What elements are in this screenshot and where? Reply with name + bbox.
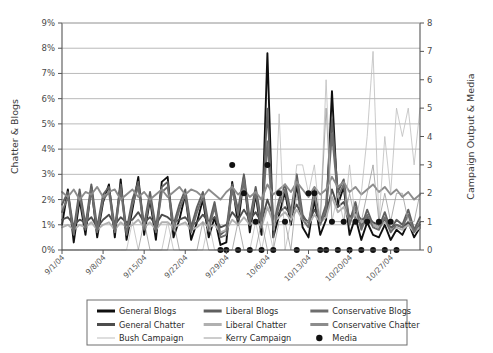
y-tick-label-right: 0 — [427, 245, 432, 255]
y-tick-label-left: 3% — [42, 169, 56, 179]
media-dot — [305, 190, 311, 196]
x-tick-label: 10/20/04 — [324, 253, 355, 284]
x-tick-label: 9/8/04 — [84, 253, 108, 277]
media-dot — [276, 190, 282, 196]
y-tick-label-left: 2% — [42, 195, 56, 205]
y-tick-label-right: 7 — [427, 46, 432, 56]
x-tick-label: 9/22/04 — [163, 253, 190, 280]
y-tick-label-left: 0% — [42, 245, 56, 255]
line-chart: 0%1%2%3%4%5%6%7%8%9%0123456789/1/049/8/0… — [0, 0, 493, 353]
media-dot — [364, 219, 370, 225]
media-dot — [352, 219, 358, 225]
media-dot — [388, 219, 394, 225]
y-tick-label-left: 6% — [42, 94, 56, 104]
legend: General BlogsLiberal BlogsConservative B… — [87, 300, 420, 345]
legend-item-label: Liberal Chatter — [226, 320, 288, 330]
x-tick-label: 9/15/04 — [122, 253, 149, 280]
y-tick-label-right: 3 — [427, 160, 432, 170]
y-tick-label-right: 4 — [427, 132, 432, 142]
chart-container: 0%1%2%3%4%5%6%7%8%9%0123456789/1/049/8/0… — [0, 0, 493, 353]
y-tick-label-right: 1 — [427, 217, 432, 227]
y-axis-title-left: Chatter & Blogs — [9, 99, 20, 174]
x-tick-label: 10/6/04 — [245, 253, 272, 280]
media-dot — [311, 190, 317, 196]
legend-item-label: Bush Campaign — [119, 333, 183, 343]
legend-item-label: General Blogs — [119, 306, 176, 316]
y-tick-label-right: 5 — [427, 103, 432, 113]
legend-item-label: Liberal Blogs — [226, 306, 279, 316]
x-tick-label: 9/1/04 — [43, 253, 67, 277]
axes: 0%1%2%3%4%5%6%7%8%9%0123456789/1/049/8/0… — [42, 18, 433, 284]
media-dot — [229, 162, 235, 168]
y-tick-label-left: 7% — [42, 68, 56, 78]
media-dot — [341, 219, 347, 225]
y-tick-label-right: 8 — [427, 18, 432, 28]
media-dot — [282, 219, 288, 225]
y-tick-label-right: 2 — [427, 188, 432, 198]
x-tick-label: 9/29/04 — [204, 253, 231, 280]
media-dot — [253, 219, 259, 225]
legend-item-label: Kerry Campaign — [226, 333, 292, 343]
plot-area — [62, 51, 420, 253]
legend-item-label: General Chatter — [119, 320, 185, 330]
media-dot — [241, 190, 247, 196]
y-tick-label-left: 4% — [42, 144, 56, 154]
legend-item-label: Media — [332, 333, 357, 343]
media-dot — [376, 219, 382, 225]
y-tick-label-left: 5% — [42, 119, 56, 129]
y-tick-label-right: 6 — [427, 75, 432, 85]
x-tick-label: 10/27/04 — [365, 253, 396, 284]
y-axis-title-right: Campaign Output & Media — [465, 73, 476, 199]
legend-marker-dot — [316, 335, 322, 341]
media-dot — [329, 219, 335, 225]
y-tick-label-left: 9% — [42, 18, 56, 28]
x-tick-label: 10/13/04 — [282, 253, 313, 284]
y-tick-label-left: 8% — [42, 43, 56, 53]
media-dot — [264, 162, 270, 168]
legend-item-label: Conservative Chatter — [332, 320, 420, 330]
legend-item-label: Conservative Blogs — [332, 306, 411, 316]
y-tick-label-left: 1% — [42, 220, 56, 230]
